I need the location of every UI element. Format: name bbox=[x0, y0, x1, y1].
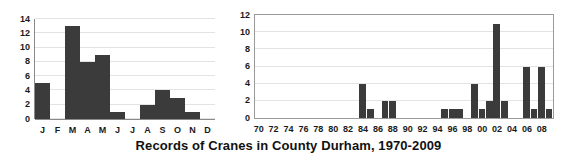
bar bbox=[471, 84, 478, 118]
y-tick-label: 2 bbox=[0, 100, 30, 109]
bar bbox=[140, 105, 155, 119]
bar bbox=[155, 90, 170, 119]
figure-container: 02468101214 JFMAMJJASOND 024681012 70727… bbox=[0, 0, 577, 161]
x-tick-label: M bbox=[95, 125, 110, 135]
x-tick-label: M bbox=[65, 125, 80, 135]
x-tick-label: N bbox=[185, 125, 200, 135]
y-tick-label: 0 bbox=[0, 115, 30, 124]
bar bbox=[493, 24, 500, 118]
bar bbox=[523, 67, 530, 119]
y-tick-label: 8 bbox=[228, 45, 250, 54]
bar bbox=[546, 109, 553, 118]
y-tick-label: 2 bbox=[228, 96, 250, 105]
x-tick-label: 08 bbox=[531, 124, 553, 134]
yearly-plot-area bbox=[254, 14, 554, 119]
bar bbox=[35, 83, 50, 119]
monthly-x-axis-line bbox=[35, 119, 215, 120]
bar bbox=[441, 109, 448, 118]
x-tick-label: F bbox=[50, 125, 65, 135]
bar bbox=[456, 109, 463, 118]
y-tick-label: 6 bbox=[0, 72, 30, 81]
y-tick-label: 12 bbox=[228, 11, 250, 20]
bar bbox=[65, 26, 80, 119]
yearly-bar-chart: 024681012 707274767880828486889092949698… bbox=[228, 0, 577, 135]
y-tick-label: 8 bbox=[0, 57, 30, 66]
bar bbox=[359, 84, 366, 118]
x-tick-label: A bbox=[140, 125, 155, 135]
y-tick-label: 10 bbox=[0, 43, 30, 52]
x-tick-label: A bbox=[80, 125, 95, 135]
bar bbox=[382, 101, 389, 118]
x-tick-label: O bbox=[170, 125, 185, 135]
bar bbox=[479, 109, 486, 118]
bar bbox=[449, 109, 456, 118]
x-tick-label: J bbox=[35, 125, 50, 135]
bar bbox=[80, 62, 95, 119]
bar bbox=[531, 109, 538, 118]
y-tick-label: 14 bbox=[0, 15, 30, 24]
y-tick-label: 4 bbox=[228, 79, 250, 88]
y-tick-label: 10 bbox=[228, 28, 250, 37]
y-tick-label: 6 bbox=[228, 62, 250, 71]
x-tick-label: J bbox=[125, 125, 140, 135]
figure-title: Records of Cranes in County Durham, 1970… bbox=[0, 138, 577, 153]
bar bbox=[486, 101, 493, 118]
yearly-bars-group bbox=[255, 15, 553, 118]
monthly-bars-group bbox=[35, 19, 215, 119]
bar bbox=[110, 112, 125, 119]
bar bbox=[367, 109, 374, 118]
y-tick-label: 0 bbox=[228, 114, 250, 123]
x-tick-label: S bbox=[155, 125, 170, 135]
bar bbox=[170, 98, 185, 119]
bar bbox=[501, 101, 508, 118]
bar bbox=[389, 101, 396, 118]
y-tick-label: 12 bbox=[0, 29, 30, 38]
bar bbox=[538, 67, 545, 119]
x-tick-label: D bbox=[200, 125, 215, 135]
bar bbox=[95, 55, 110, 119]
y-tick-label: 4 bbox=[0, 86, 30, 95]
x-tick-label: J bbox=[110, 125, 125, 135]
bar bbox=[185, 112, 200, 119]
monthly-plot-area bbox=[35, 19, 215, 119]
monthly-bar-chart: 02468101214 JFMAMJJASOND bbox=[0, 0, 228, 135]
